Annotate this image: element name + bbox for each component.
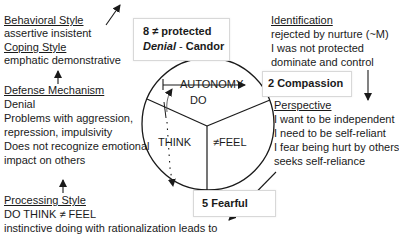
candor-text: Candor [186, 40, 225, 52]
type-2-box: 2 Compassion [262, 71, 352, 97]
divider-upper-right [207, 100, 270, 126]
arrow-up-right [106, 5, 120, 25]
denial-candor-line: Denial - Candor [143, 40, 224, 53]
denial-text: Denial [143, 40, 176, 52]
feel-label: ≠FEEL [213, 136, 247, 148]
compassion-label: 2 Compassion [268, 77, 343, 90]
type-8-box: 8 ≠ protected Denial - Candor [133, 18, 230, 61]
fearful-label: 5 Fearful [202, 197, 248, 210]
type-8-label: 8 ≠ protected [143, 25, 211, 38]
type-5-box: 5 Fearful [193, 190, 276, 217]
autonomy-label: AUTONOMY [180, 78, 243, 90]
think-label: THINK [158, 136, 191, 148]
separator: - [176, 40, 186, 52]
do-label: DO [190, 94, 207, 106]
